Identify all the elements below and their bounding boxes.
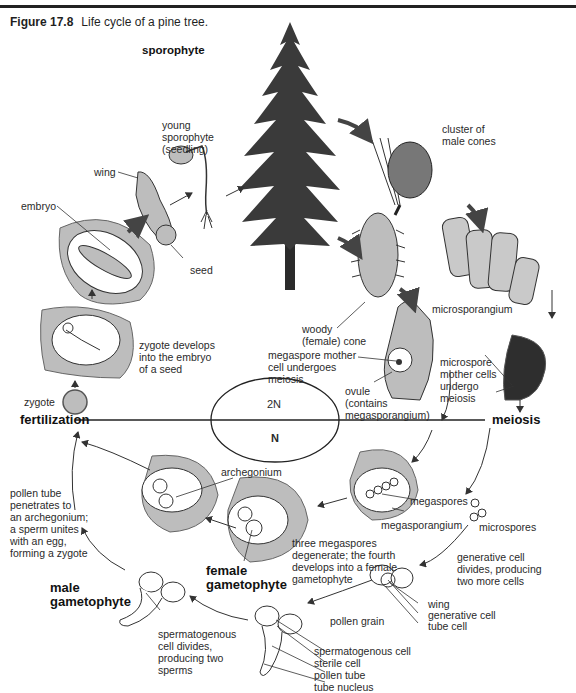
megaspores-label: megaspores <box>410 495 468 507</box>
pollen-tube-label: pollen tube <box>314 669 365 681</box>
microspores-icon <box>470 499 486 521</box>
pollen-tube-penetrates-label: pollen tube penetrates to an archegonium… <box>10 487 88 559</box>
woody-cone-label: woody (female) cone <box>302 323 366 347</box>
winged-seed-icon <box>136 172 176 245</box>
ovule-megaspores-icon <box>350 450 418 520</box>
male-cone-cluster-icon <box>372 138 432 215</box>
embryo-label: embryo <box>21 200 56 212</box>
zygote-icon <box>63 390 87 414</box>
germinating-pollen-icon <box>255 606 302 676</box>
male-gametophyte-label: male gametophyte <box>50 581 131 609</box>
seed-label: seed <box>190 264 213 276</box>
three-megaspores-label: three megaspores degenerate; the fourth … <box>292 537 397 585</box>
seed-wing-label: wing <box>94 166 116 178</box>
megasporangium-label: megasporangium <box>381 519 462 531</box>
microsporangium-section-icon <box>504 335 546 400</box>
seed-embryo-section-icon <box>56 218 154 306</box>
microsporangia-icon <box>441 216 540 306</box>
female-cone-icon <box>351 213 405 297</box>
sterile-cell-label: sterile cell <box>314 657 361 669</box>
ploidy-n-label: N <box>271 432 279 444</box>
spermatogenous-divides-label: spermatogenous cell divides, producing t… <box>158 628 236 676</box>
zygote-develops-label: zygote develops into the embryo of a see… <box>139 339 215 375</box>
megaspore-mother-label: megaspore mother cell undergoes meiosis <box>268 349 356 385</box>
pine-tree-icon <box>238 22 340 290</box>
pollen-grain-label: pollen grain <box>330 615 384 627</box>
tube-cell-label: tube cell <box>428 620 467 632</box>
meiosis-label: meiosis <box>492 413 540 427</box>
spermatogenous-cell-label: spermatogenous cell <box>314 645 411 657</box>
fertilization-label: fertilization <box>20 413 89 427</box>
generative-cell-divides-label: generative cell divides, producing two m… <box>457 551 542 587</box>
ovule-label: ovule (contains megasporangium) <box>345 385 430 421</box>
archegonium-label: archegonium <box>221 466 282 478</box>
tube-nucleus-label: tube nucleus <box>314 681 374 693</box>
microspore-mother-label: microspore mother cells undergo meiosis <box>440 356 497 404</box>
zygote-label: zygote <box>24 396 55 408</box>
seedling-icon <box>169 146 212 229</box>
ploidy-2n-label: 2N <box>267 398 281 410</box>
ovule-embryo-development-icon <box>41 307 134 378</box>
young-sporophyte-label: young sporophyte (seedling) <box>162 119 214 155</box>
microspores-label: microspores <box>479 521 536 533</box>
archegonium-ovule-icon <box>142 455 218 532</box>
sporophyte-label: sporophyte <box>142 44 205 56</box>
microsporangium-label: microsporangium <box>432 303 513 315</box>
female-gametophyte-label: female gametophyte <box>206 564 287 592</box>
male-cones-label: cluster of male cones <box>442 123 496 147</box>
